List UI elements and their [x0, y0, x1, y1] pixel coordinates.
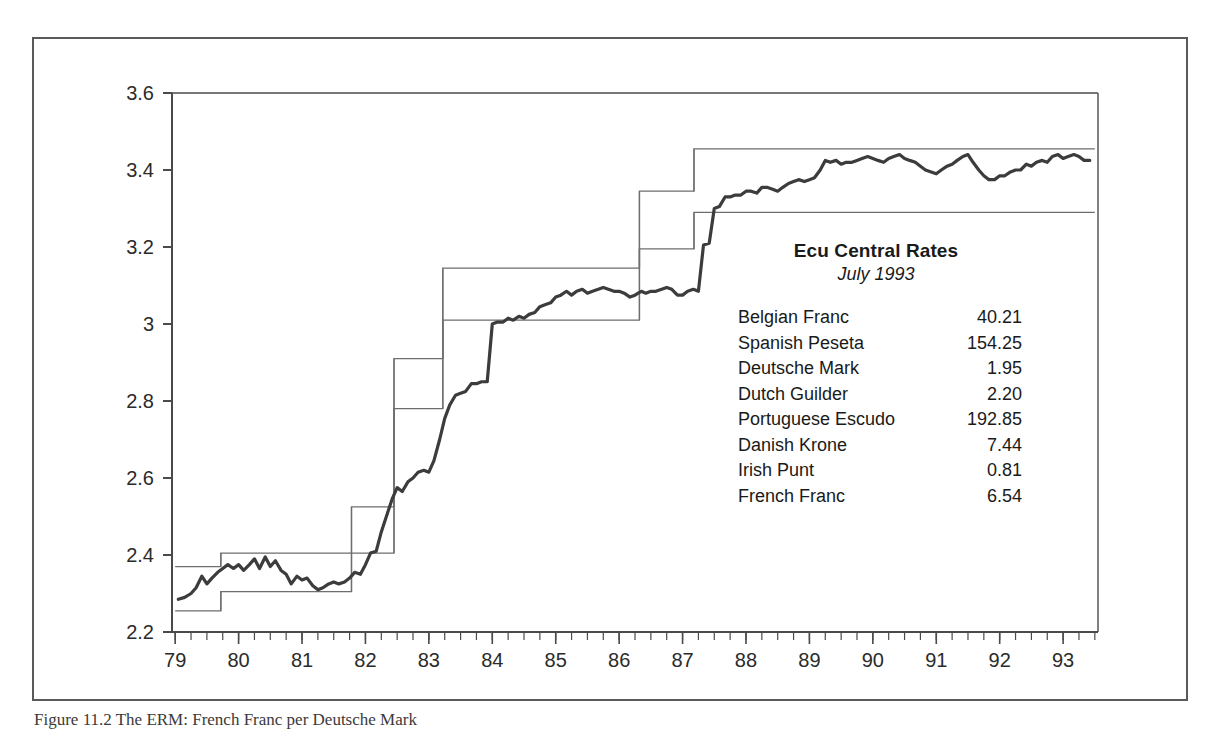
legend-currency-rate: 154.25: [967, 331, 1022, 357]
x-tick-label: 88: [735, 649, 757, 671]
legend-subtitle: July 1993: [726, 264, 1026, 285]
figure-caption: Figure 11.2 The ERM: French Franc per De…: [34, 710, 934, 732]
y-tick-label: 3: [143, 313, 154, 335]
y-tick-label: 3.6: [126, 82, 154, 104]
figure-page: 2.22.42.62.833.23.43.6798081828384858687…: [0, 0, 1223, 732]
legend-currency-name: Portuguese Escudo: [738, 407, 895, 433]
legend-currency-name: Spanish Peseta: [738, 331, 864, 357]
legend-currency-name: Danish Krone: [738, 433, 847, 459]
legend-currency-rate: 6.54: [987, 484, 1022, 510]
x-tick-label: 85: [545, 649, 567, 671]
legend-currency-rate: 1.95: [987, 356, 1022, 382]
legend-row: Spanish Peseta154.25: [726, 331, 1026, 357]
x-tick-label: 89: [798, 649, 820, 671]
legend-currency-rate: 7.44: [987, 433, 1022, 459]
legend-currency-rate: 2.20: [987, 382, 1022, 408]
legend-row: Deutsche Mark1.95: [726, 356, 1026, 382]
x-tick-label: 83: [418, 649, 440, 671]
legend-currency-name: Belgian Franc: [738, 305, 849, 331]
x-tick-label: 92: [989, 649, 1011, 671]
legend-currency-name: Deutsche Mark: [738, 356, 859, 382]
legend-row: Dutch Guilder2.20: [726, 382, 1026, 408]
y-tick-label: 3.2: [126, 236, 154, 258]
legend-currency-name: French Franc: [738, 484, 845, 510]
legend-row: French Franc6.54: [726, 484, 1026, 510]
x-tick-label: 81: [291, 649, 313, 671]
y-tick-label: 2.8: [126, 390, 154, 412]
x-tick-label: 93: [1052, 649, 1074, 671]
ecu-central-rates-legend: Ecu Central Rates July 1993 Belgian Fran…: [726, 240, 1026, 509]
x-tick-label: 87: [671, 649, 693, 671]
x-tick-label: 82: [354, 649, 376, 671]
legend-title: Ecu Central Rates: [726, 240, 1026, 262]
legend-currency-name: Irish Punt: [738, 458, 814, 484]
x-tick-label: 80: [227, 649, 249, 671]
legend-currency-rate: 0.81: [987, 458, 1022, 484]
x-tick-label: 84: [481, 649, 503, 671]
legend-row: Belgian Franc40.21: [726, 305, 1026, 331]
x-tick-label: 91: [925, 649, 947, 671]
y-tick-label: 2.4: [126, 544, 154, 566]
legend-currency-rate: 192.85: [967, 407, 1022, 433]
chart-plot-area: 2.22.42.62.833.23.43.6798081828384858687…: [0, 0, 1223, 732]
legend-row: Irish Punt0.81: [726, 458, 1026, 484]
legend-row: Danish Krone7.44: [726, 433, 1026, 459]
y-tick-label: 2.2: [126, 621, 154, 643]
ecu-exchange-rate-chart: 2.22.42.62.833.23.43.6798081828384858687…: [0, 0, 1223, 732]
y-tick-label: 2.6: [126, 467, 154, 489]
legend-currency-name: Dutch Guilder: [738, 382, 848, 408]
x-tick-label: 90: [862, 649, 884, 671]
y-tick-label: 3.4: [126, 159, 154, 181]
legend-rows: Belgian Franc40.21Spanish Peseta154.25De…: [726, 305, 1026, 509]
x-tick-label: 86: [608, 649, 630, 671]
legend-currency-rate: 40.21: [977, 305, 1022, 331]
legend-row: Portuguese Escudo192.85: [726, 407, 1026, 433]
x-tick-label: 79: [164, 649, 186, 671]
